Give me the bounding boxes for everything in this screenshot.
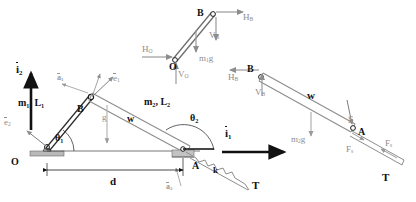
fbd-link2-pin-B xyxy=(259,75,264,80)
unit-vector-e2-arrow xyxy=(27,131,46,146)
label-point-A-main: A xyxy=(192,161,199,171)
label-width-w-main: w xyxy=(127,114,134,124)
label-force-HB-link2: HB xyxy=(228,73,238,83)
fbd-link2-body xyxy=(259,73,355,132)
label-accel-vector-a2: a2 xyxy=(166,183,172,192)
diagram-canvas: i2 m1, L1 e2 a1 e1 B g θ1 O m2, L2 w θ2 … xyxy=(0,0,416,202)
diagram-vector-layer xyxy=(0,0,416,202)
accel-vector-a2-arrow xyxy=(176,168,181,186)
label-force-Fs-T: Fs xyxy=(385,139,392,149)
label-unit-vector-i1: i1 xyxy=(225,128,231,141)
label-point-O-fbd: O xyxy=(169,62,177,72)
dimension-line-d xyxy=(47,158,183,176)
label-gravity-g: g xyxy=(102,113,107,122)
label-weight-m2g: m2g xyxy=(291,135,305,145)
label-normal-S: S xyxy=(348,115,354,125)
label-tension-T-main: T xyxy=(252,180,259,191)
label-width-w-fbd: w xyxy=(307,90,315,101)
fbd-link1-pin-B xyxy=(211,12,216,17)
label-force-VB-link1: VB xyxy=(209,31,219,41)
label-force-VO: VO xyxy=(178,70,189,80)
label-tension-T-fbd: T xyxy=(382,172,389,183)
label-unit-vector-e1: e1 xyxy=(113,74,120,84)
label-unit-vector-e2: e2 xyxy=(4,118,11,128)
label-point-A-fbd: A xyxy=(358,127,365,137)
label-link1-mass-length: m1, L1 xyxy=(18,98,44,109)
label-force-HB-link1: HB xyxy=(243,13,253,23)
label-point-B-fbd2: B xyxy=(247,64,254,74)
label-force-VB-link2: VB xyxy=(255,88,265,98)
label-point-O-main: O xyxy=(11,157,19,167)
ground-support-O xyxy=(30,144,64,156)
label-angle-theta2: θ2 xyxy=(190,113,198,124)
label-spring-k: k xyxy=(213,166,218,175)
fbd-link2-pin-A xyxy=(351,126,356,131)
label-link2-mass-length: m2, L2 xyxy=(144,97,170,108)
label-angle-theta1: θ1 xyxy=(55,133,63,144)
link-1-OB xyxy=(46,96,93,150)
force-Fs-arrow-T xyxy=(381,149,397,158)
label-point-B-fbd1: B xyxy=(197,8,204,18)
label-point-B-main: B xyxy=(77,104,84,114)
label-weight-m1g: m1g xyxy=(199,54,213,64)
link-2-BA xyxy=(89,93,190,154)
accel-vector-a1-arrow xyxy=(62,84,88,93)
label-force-Fs-A: Fs xyxy=(346,145,353,155)
label-unit-vector-i2: i2 xyxy=(16,64,22,77)
label-force-HO: HO xyxy=(142,45,153,55)
label-dimension-d: d xyxy=(110,176,116,187)
label-accel-vector-a1: a1 xyxy=(57,74,63,83)
